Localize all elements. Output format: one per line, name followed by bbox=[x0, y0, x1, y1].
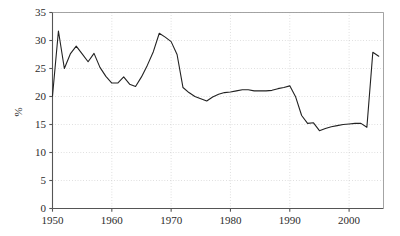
y-tick-label: 25 bbox=[35, 62, 47, 74]
x-tick-label: 1980 bbox=[219, 214, 242, 226]
x-tick-label: 1950 bbox=[42, 214, 65, 226]
x-tick-label: 2000 bbox=[338, 214, 361, 226]
y-tick-label: 0 bbox=[41, 202, 47, 214]
y-tick-label: 35 bbox=[35, 6, 47, 18]
y-tick-label: 30 bbox=[35, 34, 47, 46]
chart-container: 195019601970198019902000 05101520253035 … bbox=[0, 0, 400, 236]
line-chart: 195019601970198019902000 05101520253035 … bbox=[0, 0, 400, 236]
chart-background bbox=[0, 0, 400, 236]
y-tick-label: 10 bbox=[35, 146, 47, 158]
y-tick-label: 20 bbox=[35, 90, 47, 102]
x-tick-label: 1990 bbox=[279, 214, 302, 226]
y-axis-title: % bbox=[12, 107, 24, 116]
y-tick-label: 15 bbox=[35, 118, 47, 130]
x-tick-label: 1970 bbox=[160, 214, 183, 226]
x-tick-label: 1960 bbox=[101, 214, 124, 226]
y-tick-label: 5 bbox=[41, 174, 47, 186]
